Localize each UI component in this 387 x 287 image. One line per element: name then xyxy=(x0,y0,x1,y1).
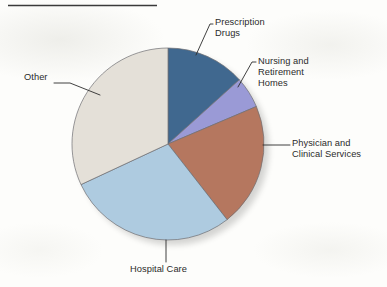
slice-label-hospital-care: Hospital Care xyxy=(130,264,187,275)
slice-label-prescription-drugs: Prescription Drugs xyxy=(215,17,265,39)
leader-line-prescription-drugs xyxy=(196,24,213,55)
chart-page: Prescription Drugs Nursing and Retiremen… xyxy=(0,0,387,287)
pie-slice-group xyxy=(72,48,264,240)
slice-label-other: Other xyxy=(24,72,48,83)
slice-label-physician-clinical: Physician and Clinical Services xyxy=(292,138,361,160)
slice-label-nursing-homes: Nursing and Retirement Homes xyxy=(258,56,309,90)
